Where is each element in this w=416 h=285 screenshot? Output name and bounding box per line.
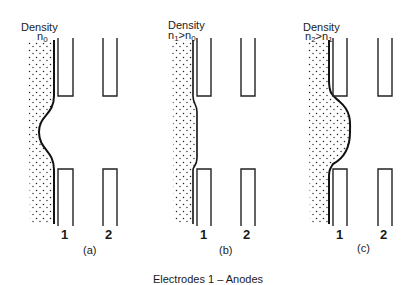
diagram-root: Density n0 1 2 (a) Density n1>n0 1 2 (b)… bbox=[0, 0, 416, 285]
electrode-1-label-c: 1 bbox=[336, 228, 343, 241]
plasma-region-a bbox=[28, 40, 54, 224]
electrode-2-a bbox=[103, 38, 117, 226]
density-expr-a: n0 bbox=[37, 31, 48, 45]
caption-b: (b) bbox=[219, 245, 232, 256]
electrode-2-label-c: 2 bbox=[380, 228, 387, 241]
density-rhs-subscript-b: 0 bbox=[191, 34, 195, 43]
diagram-graphics bbox=[0, 0, 416, 285]
electrode-2-label-a: 2 bbox=[105, 228, 112, 241]
panel-a-graphics bbox=[28, 38, 117, 226]
caption-a: (a) bbox=[83, 245, 96, 256]
density-subscript-a: 0 bbox=[43, 35, 47, 44]
panel-b-graphics bbox=[172, 38, 255, 226]
electrode-1-label-a: 1 bbox=[61, 228, 68, 241]
footer-caption: Electrodes 1 – Anodes bbox=[0, 273, 416, 285]
electrode-2-label-b: 2 bbox=[243, 228, 250, 241]
density-expr-b: n1>n0 bbox=[168, 30, 196, 44]
caption-c: (c) bbox=[357, 243, 370, 254]
electrode-1-label-b: 1 bbox=[200, 228, 207, 241]
electrode-1-b bbox=[197, 38, 211, 226]
electrode-2-b bbox=[241, 38, 255, 226]
density-expr-c: n2>n1 bbox=[305, 31, 333, 45]
electrode-1-a bbox=[58, 38, 73, 226]
density-rhs-subscript-c: 1 bbox=[328, 35, 332, 44]
panel-c-graphics bbox=[308, 38, 392, 226]
electrode-2-c bbox=[378, 38, 392, 226]
